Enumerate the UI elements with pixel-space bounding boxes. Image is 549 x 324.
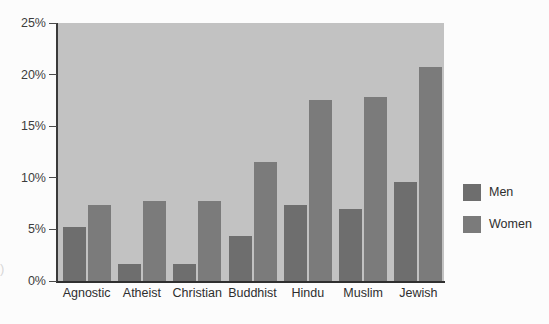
- bar-women-jewish: [419, 67, 442, 281]
- legend-label-men: Men: [489, 185, 513, 200]
- bar-women-christian: [198, 201, 221, 281]
- legend-swatch-women: [463, 216, 481, 233]
- y-axis-tick: [49, 281, 57, 282]
- bar-group: [229, 23, 277, 281]
- y-axis-tick-label: 20%: [0, 69, 46, 81]
- bar-men-hindu: [284, 205, 307, 281]
- chart-figure: ) 0%5%10%15%20%25% AgnosticAtheistChrist…: [0, 0, 549, 324]
- bar-men-buddhist: [229, 236, 252, 281]
- bar-men-jewish: [394, 182, 417, 281]
- x-axis-line: [56, 281, 445, 283]
- y-axis-tick-label-text: 15%: [2, 120, 46, 132]
- bar-women-atheist: [143, 201, 166, 281]
- y-axis-tick-label: 25%: [0, 17, 46, 29]
- y-axis-tick-label-text: 0%: [2, 275, 46, 287]
- y-axis-tick-label: 5%: [0, 223, 46, 235]
- bar-women-agnostic: [88, 205, 111, 281]
- bar-women-muslim: [364, 97, 387, 281]
- y-axis-tick-label: 10%: [0, 172, 46, 184]
- y-axis-tick-label-text: 20%: [2, 69, 46, 81]
- y-axis-tick: [49, 126, 57, 127]
- y-axis-tick-label: 0%: [0, 275, 46, 287]
- x-axis-category-label: Jewish: [380, 286, 456, 301]
- y-axis-tick-label-text: 5%: [2, 223, 46, 235]
- bar-men-agnostic: [63, 227, 86, 281]
- legend-label-women: Women: [489, 217, 532, 232]
- bar-men-christian: [173, 264, 196, 281]
- bar-group: [173, 23, 221, 281]
- y-axis-tick-label: 15%: [0, 120, 46, 132]
- bar-women-buddhist: [254, 162, 277, 281]
- bar-group: [118, 23, 166, 281]
- y-axis-tick: [49, 177, 57, 178]
- bar-group: [394, 23, 442, 281]
- bar-group: [284, 23, 332, 281]
- y-axis-line: [56, 23, 58, 282]
- y-axis-tick-label-text: 25%: [2, 17, 46, 29]
- bar-group: [339, 23, 387, 281]
- bar-group: [63, 23, 111, 281]
- bar-women-hindu: [309, 100, 332, 281]
- y-axis-tick: [49, 23, 57, 24]
- y-axis-tick: [49, 229, 57, 230]
- bar-men-muslim: [339, 209, 362, 281]
- legend-swatch-men: [463, 184, 481, 201]
- bar-men-atheist: [118, 264, 141, 281]
- y-axis-tick: [49, 74, 57, 75]
- y-axis-tick-label-text: 10%: [2, 172, 46, 184]
